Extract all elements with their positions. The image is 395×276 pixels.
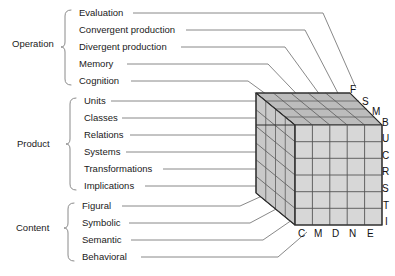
axis-letter-content-s: S xyxy=(362,96,369,107)
axis-letter-product-r: R xyxy=(382,166,389,177)
cube-front-face xyxy=(295,125,382,225)
axis-letter-product-c: C xyxy=(382,150,389,161)
axis-letter-bottom-c: C xyxy=(298,228,305,239)
diagram-canvas: Operation Product Content Evaluation Con… xyxy=(0,0,395,276)
axis-letter-product-i: I xyxy=(385,216,388,227)
axis-letter-bottom-n: N xyxy=(349,228,356,239)
axis-letter-content-b: B xyxy=(382,117,389,128)
axis-letter-product-s: S xyxy=(382,183,389,194)
axis-letter-bottom-d: D xyxy=(332,228,339,239)
axis-letter-content-m: M xyxy=(372,106,380,117)
axis-letter-product-u: U xyxy=(382,133,389,144)
axis-letter-content-f: F xyxy=(350,84,356,95)
axis-letter-bottom-m: M xyxy=(314,228,322,239)
axis-letter-top-e: E xyxy=(367,228,374,239)
axis-letter-product-t: T xyxy=(383,200,389,211)
